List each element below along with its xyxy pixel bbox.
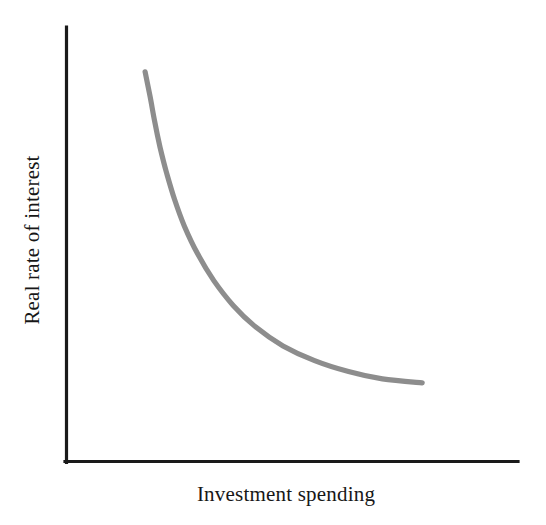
chart-background xyxy=(0,0,546,525)
chart-figure: Investment spending Real rate of interes… xyxy=(0,0,546,525)
x-axis-label: Investment spending xyxy=(0,484,546,505)
chart-canvas xyxy=(0,0,546,525)
